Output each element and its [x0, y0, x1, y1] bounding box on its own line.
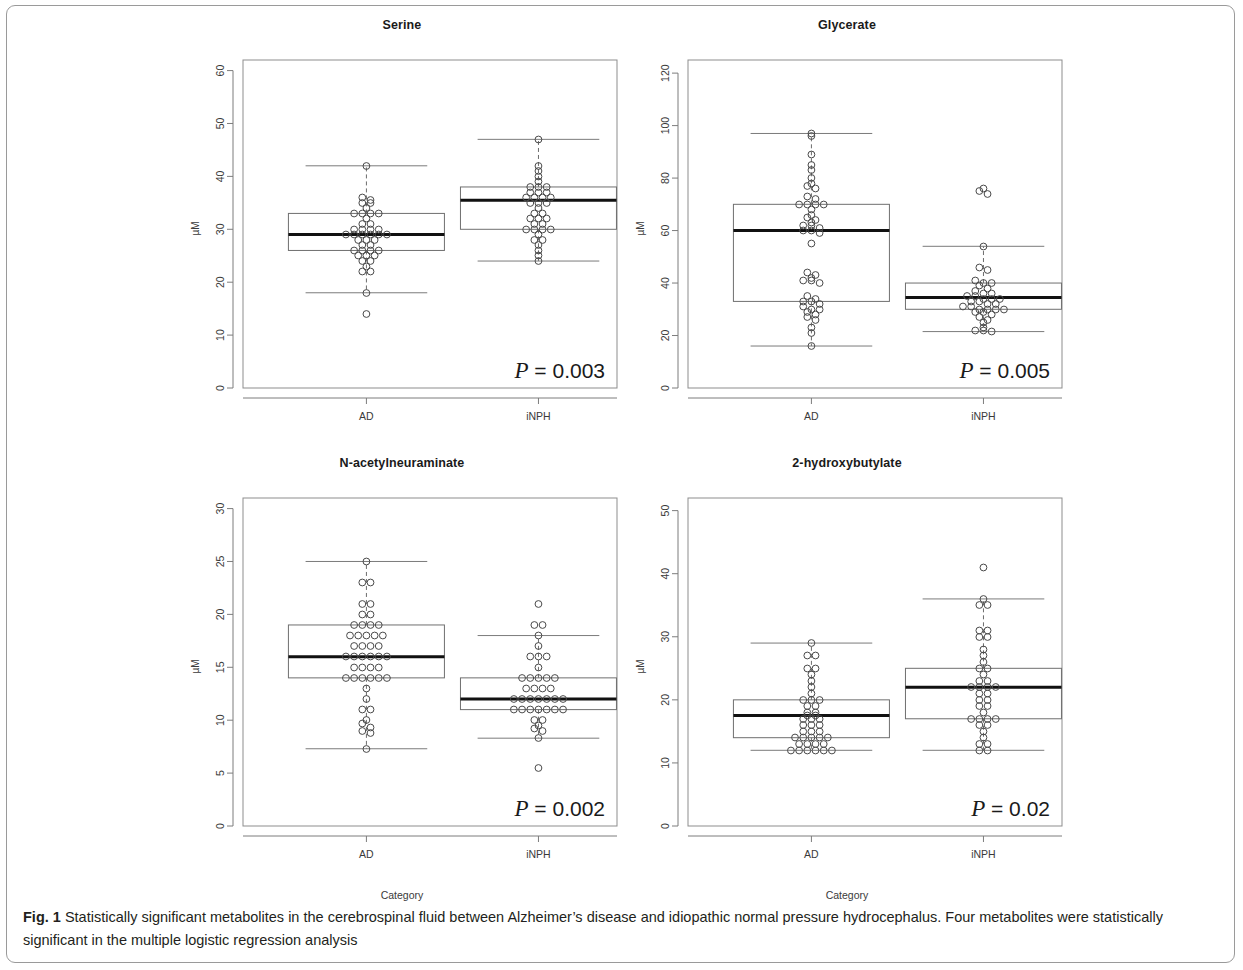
svg-text:0: 0 — [214, 385, 226, 391]
svg-text:30: 30 — [214, 503, 226, 515]
svg-text:iNPH: iNPH — [526, 848, 551, 860]
x-axis-label: Category — [177, 889, 627, 901]
svg-text:P = 0.005: P = 0.005 — [958, 358, 1050, 383]
caption-text: Statistically significant metabolites in… — [23, 909, 1163, 948]
svg-text:30: 30 — [659, 631, 671, 643]
svg-text:10: 10 — [214, 714, 226, 726]
svg-text:0: 0 — [214, 823, 226, 829]
svg-text:P = 0.002: P = 0.002 — [513, 796, 605, 821]
svg-text:40: 40 — [659, 277, 671, 289]
svg-text:iNPH: iNPH — [971, 848, 996, 860]
svg-text:0: 0 — [659, 823, 671, 829]
svg-text:60: 60 — [659, 225, 671, 237]
svg-text:P = 0.02: P = 0.02 — [970, 796, 1050, 821]
svg-text:5: 5 — [214, 770, 226, 776]
caption-label: Fig. 1 — [23, 909, 61, 925]
figure-caption: Fig. 1 Statistically significant metabol… — [23, 906, 1223, 952]
svg-text:60: 60 — [214, 65, 226, 77]
svg-text:50: 50 — [659, 505, 671, 517]
panel-2-hydroxybutylate: 2-hydroxybutylate µM 01020304050ADiNPHP … — [622, 456, 1072, 906]
figure-frame: Serine µM 0102030405060ADiNPHP = 0.003 G… — [6, 5, 1235, 963]
svg-text:25: 25 — [214, 555, 226, 567]
svg-text:20: 20 — [214, 276, 226, 288]
plot-glycerate: 020406080100120ADiNPHP = 0.005 — [622, 28, 1072, 448]
svg-text:80: 80 — [659, 172, 671, 184]
svg-text:iNPH: iNPH — [526, 410, 551, 422]
svg-text:P = 0.003: P = 0.003 — [513, 358, 605, 383]
svg-text:AD: AD — [804, 848, 819, 860]
svg-text:20: 20 — [659, 694, 671, 706]
svg-text:AD: AD — [804, 410, 819, 422]
svg-text:40: 40 — [659, 568, 671, 580]
svg-text:0: 0 — [659, 385, 671, 391]
svg-text:20: 20 — [214, 608, 226, 620]
svg-text:10: 10 — [214, 329, 226, 341]
panel-serine: Serine µM 0102030405060ADiNPHP = 0.003 — [177, 18, 627, 448]
x-axis-label: Category — [622, 889, 1072, 901]
plot-serine: 0102030405060ADiNPHP = 0.003 — [177, 28, 627, 448]
svg-text:iNPH: iNPH — [971, 410, 996, 422]
svg-text:10: 10 — [659, 757, 671, 769]
panel-n-acetylneuraminate: N-acetylneuraminate µM 051015202530ADiNP… — [177, 456, 627, 906]
svg-text:20: 20 — [659, 330, 671, 342]
svg-text:AD: AD — [359, 410, 374, 422]
svg-text:AD: AD — [359, 848, 374, 860]
svg-text:15: 15 — [214, 661, 226, 673]
svg-text:30: 30 — [214, 223, 226, 235]
plot-2-hydroxybutylate: 01020304050ADiNPHP = 0.02 — [622, 466, 1072, 911]
panel-grid: Serine µM 0102030405060ADiNPHP = 0.003 G… — [7, 6, 1236, 896]
panel-glycerate: Glycerate µM 020406080100120ADiNPHP = 0.… — [622, 18, 1072, 448]
svg-text:40: 40 — [214, 170, 226, 182]
svg-text:120: 120 — [659, 64, 671, 82]
plot-n-acetylneuraminate: 051015202530ADiNPHP = 0.002 — [177, 466, 627, 911]
svg-text:100: 100 — [659, 117, 671, 135]
svg-text:50: 50 — [214, 117, 226, 129]
